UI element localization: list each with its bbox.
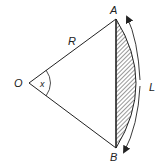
- angle-arc: [46, 70, 51, 96]
- label-angle-x: x: [39, 79, 45, 89]
- label-center-o: O: [14, 77, 23, 89]
- label-point-b: B: [110, 151, 117, 163]
- label-arc-length-l: L: [149, 81, 155, 93]
- radius-line-oa: [29, 19, 116, 83]
- label-radius-r: R: [68, 35, 76, 47]
- radius-line-ob: [29, 83, 116, 148]
- label-point-a: A: [109, 4, 117, 16]
- segment-diagram: O A B R x L: [0, 0, 163, 165]
